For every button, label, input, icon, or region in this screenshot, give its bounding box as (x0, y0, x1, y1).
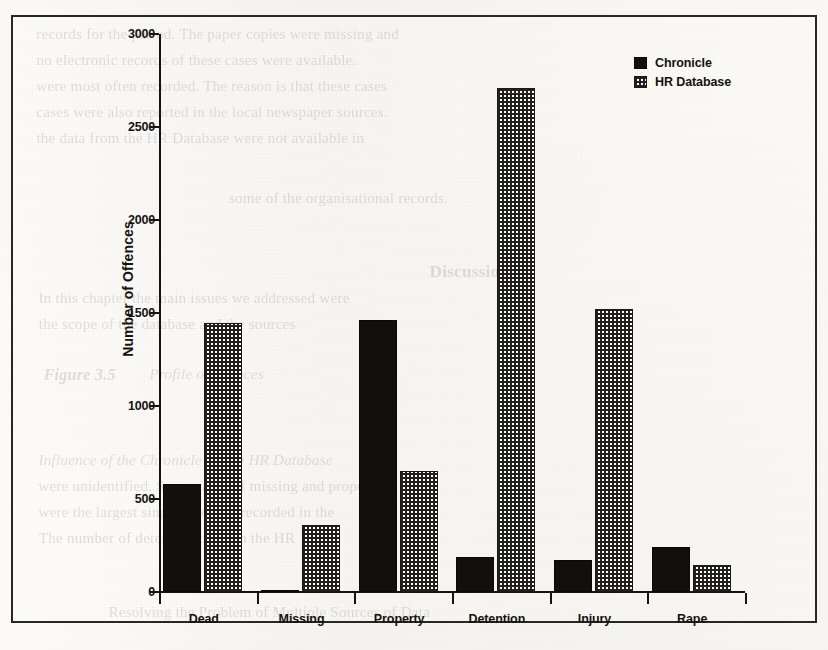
bar-missing-hr-database (302, 525, 340, 592)
y-tick-label: 500 (135, 492, 155, 506)
plot-area: Number of Offences 050010001500200025003… (159, 30, 745, 592)
bar-missing-chronicle (261, 590, 299, 592)
x-category-label-dead: Dead (189, 612, 219, 626)
bar-injury-chronicle (554, 560, 592, 592)
bar-injury-hr-database (595, 309, 633, 592)
legend-item-hr-database: HR Database (634, 75, 731, 89)
x-category-label-property: Property (374, 612, 425, 626)
y-tick-label: 1000 (128, 399, 155, 413)
x-tick-mark (452, 593, 454, 604)
x-category-label-detention: Detention (468, 612, 525, 626)
legend-item-chronicle: Chronicle (634, 56, 731, 70)
legend-label: Chronicle (655, 56, 712, 70)
bar-dead-chronicle (163, 484, 201, 592)
y-tick-label: 2500 (128, 120, 155, 134)
x-tick-mark (647, 593, 649, 604)
figure-frame: Number of Offences 050010001500200025003… (11, 15, 817, 623)
chart-legend: ChronicleHR Database (634, 56, 731, 89)
x-tick-mark (159, 593, 161, 604)
y-tick-label: 2000 (128, 213, 155, 227)
bar-rape-hr-database (693, 565, 731, 592)
x-category-label-rape: Rape (677, 612, 707, 626)
x-tick-mark (354, 593, 356, 604)
legend-swatch-solid-black-icon (634, 57, 647, 69)
bar-detention-chronicle (456, 557, 494, 592)
y-tick-label: 1500 (128, 306, 155, 320)
bar-dead-hr-database (204, 323, 242, 592)
x-category-label-injury: Injury (578, 612, 611, 626)
y-axis-line (159, 34, 161, 592)
bar-detention-hr-database (497, 88, 535, 592)
bar-property-chronicle (359, 320, 397, 592)
bar-property-hr-database (400, 471, 438, 592)
x-category-label-missing: Missing (279, 612, 325, 626)
bar-rape-chronicle (652, 547, 690, 592)
x-tick-mark (257, 593, 259, 604)
y-tick-label: 0 (148, 585, 155, 599)
legend-label: HR Database (655, 75, 731, 89)
legend-swatch-checkerboard-icon (634, 76, 647, 88)
x-tick-mark (550, 593, 552, 604)
x-tick-mark (745, 593, 747, 604)
y-tick-label: 3000 (128, 27, 155, 41)
y-axis-title: Number of Offences (120, 221, 136, 357)
